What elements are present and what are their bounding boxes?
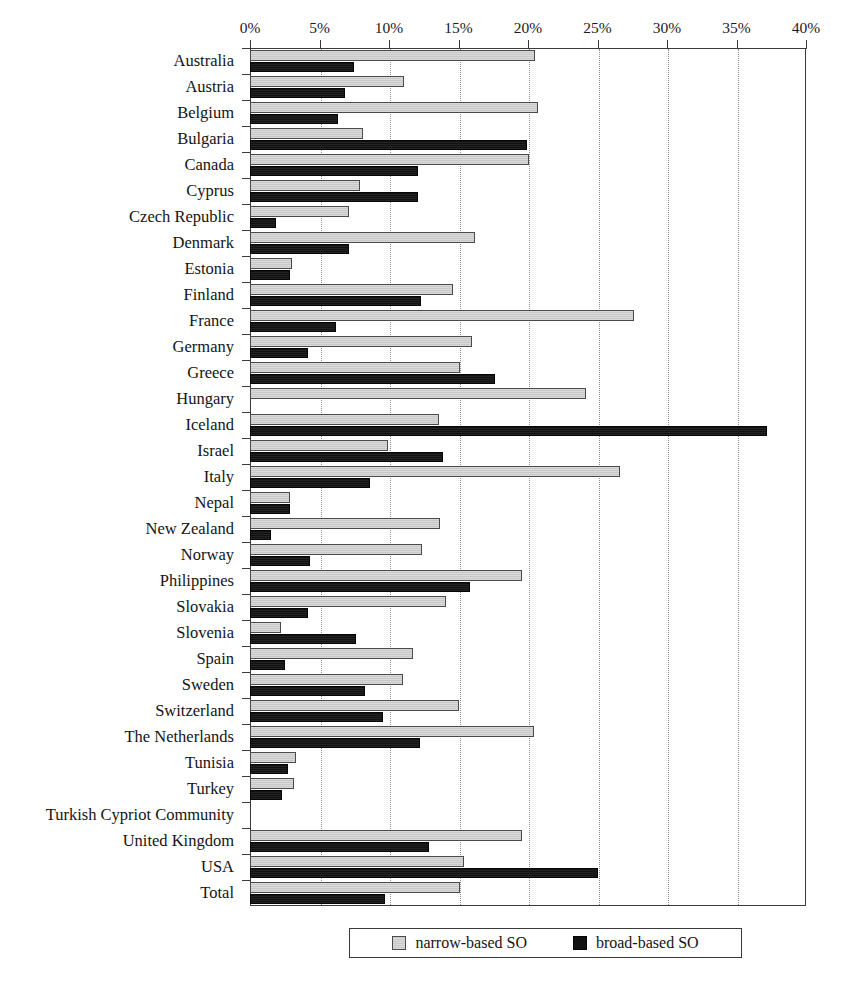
category-label: Nepal <box>0 492 242 514</box>
x-axis-tick-label: 30% <box>637 17 697 39</box>
bar-narrow-based-so <box>250 778 294 789</box>
bar-row: Denmark <box>0 230 841 256</box>
bar-broad-based-so <box>250 842 429 853</box>
bar-narrow-based-so <box>250 648 413 659</box>
bar-narrow-based-so <box>250 284 453 295</box>
bar-broad-based-so <box>250 192 418 203</box>
bar-row: Switzerland <box>0 698 841 724</box>
bar-broad-based-so <box>250 686 365 697</box>
row-separator-tick <box>242 360 251 361</box>
category-label: United Kingdom <box>0 830 242 852</box>
bar-row: Philippines <box>0 568 841 594</box>
row-separator-tick <box>242 594 251 595</box>
bar-rows: AustraliaAustriaBelgiumBulgariaCanadaCyp… <box>0 48 841 906</box>
row-separator-tick <box>242 854 251 855</box>
category-label: Tunisia <box>0 752 242 774</box>
bar-broad-based-so <box>250 88 345 99</box>
bar-row: Belgium <box>0 100 841 126</box>
bar-row: Slovenia <box>0 620 841 646</box>
bar-narrow-based-so <box>250 622 281 633</box>
x-axis-tick-label: 10% <box>359 17 419 39</box>
bar-narrow-based-so <box>250 128 363 139</box>
bar-row: Total <box>0 880 841 906</box>
bar-broad-based-so <box>250 868 598 879</box>
row-separator-tick <box>242 100 251 101</box>
row-separator-tick <box>242 230 251 231</box>
bar-row: The Netherlands <box>0 724 841 750</box>
bar-row: USA <box>0 854 841 880</box>
bar-broad-based-so <box>250 504 290 515</box>
category-label: Estonia <box>0 258 242 280</box>
bar-narrow-based-so <box>250 206 349 217</box>
bar-narrow-based-so <box>250 882 460 893</box>
legend-item[interactable]: broad-based SO <box>573 934 699 952</box>
bar-broad-based-so <box>250 374 495 385</box>
bar-narrow-based-so <box>250 752 296 763</box>
category-label: Hungary <box>0 388 242 410</box>
bar-row: Estonia <box>0 256 841 282</box>
category-label: USA <box>0 856 242 878</box>
bar-narrow-based-so <box>250 50 535 61</box>
category-label: Philippines <box>0 570 242 592</box>
row-separator-tick <box>242 74 251 75</box>
row-separator-tick <box>242 880 251 881</box>
category-label: Israel <box>0 440 242 462</box>
bar-row: Czech Republic <box>0 204 841 230</box>
bar-narrow-based-so <box>250 726 534 737</box>
bar-narrow-based-so <box>250 76 404 87</box>
category-label: Canada <box>0 154 242 176</box>
row-separator-tick <box>242 542 251 543</box>
bar-narrow-based-so <box>250 362 460 373</box>
bar-row: France <box>0 308 841 334</box>
row-separator-tick <box>242 126 251 127</box>
bar-narrow-based-so <box>250 492 290 503</box>
bar-narrow-based-so <box>250 102 538 113</box>
category-label: Turkish Cypriot Community <box>0 804 242 826</box>
bar-narrow-based-so <box>250 440 388 451</box>
bar-broad-based-so <box>250 348 308 359</box>
row-separator-tick <box>242 516 251 517</box>
bar-broad-based-so <box>250 270 290 281</box>
x-axis-tick-label: 15% <box>429 17 489 39</box>
category-label: France <box>0 310 242 332</box>
category-label: Denmark <box>0 232 242 254</box>
row-separator-tick <box>242 568 251 569</box>
bar-broad-based-so <box>250 452 443 463</box>
row-separator-tick <box>242 776 251 777</box>
bar-row: Sweden <box>0 672 841 698</box>
category-label: Cyprus <box>0 180 242 202</box>
bar-row: Finland <box>0 282 841 308</box>
chart-container: 0%5%10%15%20%25%30%35%40% AustraliaAustr… <box>0 0 841 988</box>
row-separator-tick <box>242 802 251 803</box>
bar-broad-based-so <box>250 790 282 801</box>
bar-narrow-based-so <box>250 570 522 581</box>
row-separator-tick <box>242 620 251 621</box>
bar-broad-based-so <box>250 764 288 775</box>
bar-row: Israel <box>0 438 841 464</box>
category-label: Czech Republic <box>0 206 242 228</box>
category-label: New Zealand <box>0 518 242 540</box>
x-axis-tick-label: 25% <box>568 17 628 39</box>
x-axis-tick-label: 5% <box>290 17 350 39</box>
category-label: Turkey <box>0 778 242 800</box>
legend-swatch-narrow-icon <box>392 936 406 950</box>
bar-narrow-based-so <box>250 700 459 711</box>
bar-narrow-based-so <box>250 154 529 165</box>
category-label: Switzerland <box>0 700 242 722</box>
bar-row: Turkish Cypriot Community <box>0 802 841 828</box>
bar-broad-based-so <box>250 114 338 125</box>
bar-narrow-based-so <box>250 856 464 867</box>
bar-narrow-based-so <box>250 180 360 191</box>
x-axis-tick-label: 35% <box>707 17 767 39</box>
legend-swatch-broad-icon <box>573 936 587 950</box>
bar-broad-based-so <box>250 218 276 229</box>
row-separator-tick <box>242 152 251 153</box>
legend-item[interactable]: narrow-based SO <box>392 934 527 952</box>
row-separator-tick <box>242 204 251 205</box>
bar-row: Austria <box>0 74 841 100</box>
row-separator-tick <box>242 282 251 283</box>
category-label: Austria <box>0 76 242 98</box>
bar-broad-based-so <box>250 894 385 905</box>
legend-label: broad-based SO <box>596 934 699 952</box>
row-separator-tick <box>242 750 251 751</box>
